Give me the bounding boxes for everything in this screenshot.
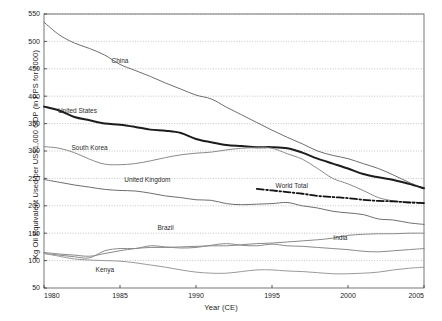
xtick-label-2005: 2005: [408, 292, 424, 299]
series-label-world-total: World Total: [276, 182, 309, 189]
series-label-united-states: United States: [58, 107, 98, 114]
series-label-kenya: Kenya: [96, 266, 115, 274]
y-axis-title: Kg Oil Equivalent Used per US$1,000 GDP …: [31, 35, 40, 275]
series-label-india: India: [333, 234, 347, 241]
gridlines-group: [44, 14, 424, 261]
xtick-label-1980: 1980: [44, 292, 60, 299]
xtick-label-1985: 1985: [112, 292, 128, 299]
series-label-south-korea: South Korea: [72, 144, 109, 151]
tick-labels-group: 5010015020025030035040045050055019801985…: [28, 10, 424, 299]
x-axis-title: Year (CE): [0, 303, 442, 312]
series-label-united-kingdom: United Kingdom: [124, 176, 170, 184]
chart-figure: 5010015020025030035040045050055019801985…: [0, 0, 442, 321]
series-label-brazil: Brazil: [157, 224, 174, 231]
xtick-label-2000: 2000: [340, 292, 356, 299]
series-label-china: China: [112, 57, 129, 64]
line-chart-plot: 5010015020025030035040045050055019801985…: [0, 0, 442, 321]
xtick-label-1990: 1990: [188, 292, 204, 299]
series-line-united-kingdom: [44, 180, 424, 225]
ytick-label-550: 550: [28, 10, 40, 17]
ytick-label-50: 50: [32, 284, 40, 291]
xtick-label-1995: 1995: [264, 292, 280, 299]
